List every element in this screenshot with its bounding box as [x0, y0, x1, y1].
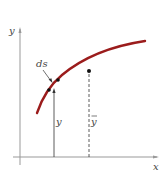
diagram-canvas: y x ds y y — [0, 0, 167, 173]
element-point-lower — [47, 88, 51, 92]
x-axis-arrow-icon — [153, 156, 159, 159]
element-point-upper — [56, 78, 60, 82]
x-axis-label: x — [153, 161, 159, 172]
curve — [37, 41, 145, 113]
centroid-point — [87, 69, 91, 73]
y-axis-label: y — [8, 25, 15, 36]
axes — [13, 27, 159, 165]
y-height-arrow-icon — [52, 88, 55, 93]
y-axis-arrow-icon — [19, 27, 22, 33]
centroid-height-label: y — [90, 116, 97, 127]
ds-label: ds — [36, 58, 48, 69]
centroid-diagram: y x ds y y — [0, 0, 167, 173]
element-height-label: y — [55, 116, 62, 127]
